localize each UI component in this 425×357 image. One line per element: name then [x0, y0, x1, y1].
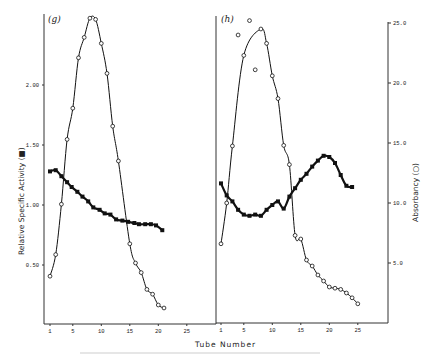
activity-point [70, 185, 74, 189]
x-tick-label: 5 [71, 328, 74, 335]
absorbancy-point [111, 124, 115, 128]
x-tick-label: 1 [48, 328, 52, 335]
absorbancy-point [316, 273, 320, 277]
absorbancy-point [117, 159, 121, 163]
absorbancy-point [356, 302, 360, 306]
activity-point [65, 180, 69, 184]
activity-point [270, 203, 274, 207]
absorbancy-point [151, 292, 155, 296]
x-tick-label: 20 [326, 327, 333, 334]
panel-label-g: (g) [48, 14, 61, 24]
left-y-axis-label: Relative Specific Activity (■) [17, 147, 26, 255]
absorbancy-point [99, 42, 103, 46]
absorbancy-point [253, 68, 257, 72]
activity-point [305, 172, 309, 176]
absorbancy-point [299, 237, 303, 241]
activity-point [54, 168, 58, 172]
absorbancy-point [310, 264, 314, 268]
absorbancy-point [156, 303, 160, 307]
activity-point [80, 195, 84, 199]
activity-point [154, 223, 158, 227]
left-tick-label: 1.00 [26, 202, 39, 209]
absorbancy-point [265, 42, 269, 46]
absorbancy-point [65, 138, 69, 142]
activity-point [132, 221, 136, 225]
x-tick-label: 20 [155, 328, 162, 335]
x-tick-label: 10 [269, 327, 276, 334]
panel-label-h: (h) [221, 14, 234, 24]
activity-point [344, 184, 348, 188]
absorbancy-point [219, 242, 223, 246]
absorbancy-point [82, 36, 86, 40]
x-tick-label: 5 [242, 327, 245, 334]
absorbancy-curve [50, 16, 164, 308]
activity-curve [221, 156, 352, 216]
absorbancy-point [145, 288, 149, 292]
right-tick-label: 5.0 [393, 260, 403, 267]
left-tick-label: 1.50 [26, 142, 39, 149]
absorbancy-point [48, 274, 52, 278]
axes [44, 14, 388, 324]
activity-point [86, 199, 90, 203]
activity-point [333, 161, 337, 165]
absorbancy-point [54, 253, 58, 257]
activity-point [143, 222, 147, 226]
activity-point [293, 186, 297, 190]
activity-point [160, 228, 164, 232]
absorbancy-point [242, 54, 246, 58]
absorbancy-point [339, 288, 343, 292]
absorbancy-point [276, 97, 280, 101]
absorbancy-point [139, 271, 143, 275]
absorbancy-point [128, 242, 132, 246]
x-tick-label: 10 [98, 328, 105, 335]
activity-point [48, 169, 52, 173]
absorbancy-point [88, 16, 92, 20]
activity-point [327, 155, 331, 159]
data-series [48, 16, 360, 310]
activity-point [236, 208, 240, 212]
absorbancy-point [322, 279, 326, 283]
right-tick-label: 25.0 [393, 20, 406, 27]
activity-point [350, 185, 354, 189]
activity-point [282, 207, 286, 211]
left-tick-label: 2.00 [26, 82, 39, 89]
absorbancy-point [259, 27, 263, 31]
absorbancy-point [162, 306, 166, 310]
activity-point [75, 190, 79, 194]
absorbancy-point [305, 258, 309, 262]
activity-point [98, 208, 102, 212]
x-tick-label: 1 [219, 327, 223, 334]
x-tick-label: 25 [354, 327, 361, 334]
right-tick-label: 20.0 [393, 80, 406, 87]
x-axis-label: Tube Number [194, 340, 256, 349]
activity-point [287, 195, 291, 199]
activity-point [248, 214, 252, 218]
activity-point [230, 199, 234, 203]
absorbancy-point [236, 33, 240, 37]
chromatography-chart: 0.501.001.502.005.010.015.020.025.015101… [0, 0, 425, 357]
activity-point [91, 205, 95, 209]
right-tick-label: 10.0 [393, 200, 406, 207]
activity-point [322, 154, 326, 158]
x-tick-label: 15 [126, 328, 133, 335]
activity-point [114, 217, 118, 221]
absorbancy-point [327, 285, 331, 289]
activity-point [120, 219, 124, 223]
activity-point [299, 178, 303, 182]
activity-point [316, 159, 320, 163]
absorbancy-point [293, 234, 297, 238]
activity-curve [50, 170, 162, 230]
activity-point [253, 213, 257, 217]
right-y-axis-label: Absorbancy (○) [411, 163, 420, 222]
activity-point [137, 222, 141, 226]
absorbancy-point [225, 201, 229, 205]
absorbancy-point [94, 18, 98, 22]
absorbancy-point [77, 56, 81, 60]
faded-caption [80, 352, 320, 354]
absorbancy-point [60, 202, 64, 206]
absorbancy-point [105, 72, 109, 76]
absorbancy-point [350, 296, 354, 300]
x-tick-label: 15 [297, 327, 304, 334]
absorbancy-point [231, 144, 235, 148]
activity-point [103, 211, 107, 215]
